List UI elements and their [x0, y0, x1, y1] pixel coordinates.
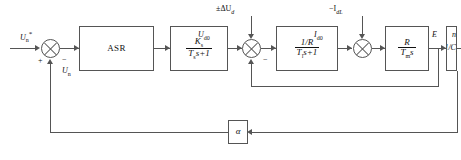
- label-speed-feedback: Un: [62, 66, 71, 77]
- wire-output-tap-down: [457, 71, 458, 132]
- label-reference-input: Un*: [20, 30, 32, 43]
- label-emf-signal: E: [432, 30, 437, 39]
- arrow-reference-in: [35, 45, 40, 51]
- arrow-emf-feedback: [248, 59, 254, 64]
- label-disturbance-voltage: ±ΔUd: [216, 4, 234, 15]
- wire-alpha-to-sum1: [50, 132, 228, 133]
- block-feedback-coefficient: α: [228, 120, 248, 144]
- block-asr: ASR: [79, 26, 154, 71]
- wire-emf-feedback-up: [251, 63, 252, 87]
- wire-disturbance-load: [362, 16, 363, 36]
- wire-disturbance-voltage: [251, 16, 252, 36]
- wire-feedback-up-to-sum1: [50, 63, 51, 133]
- summing-junction-torque: [353, 39, 372, 58]
- wire-reference-in: [10, 48, 35, 49]
- sign-sum2-minus: −: [263, 55, 268, 64]
- block-diagram: Un* + − ASR Ks Tss+1 Ud0 ±ΔUd −: [0, 0, 461, 160]
- summing-junction-emf: [242, 39, 261, 58]
- label-current: Id0: [314, 30, 323, 41]
- wire-emf-feedback-down: [438, 48, 439, 86]
- mechanical-transfer-function: R Tms: [398, 38, 415, 60]
- emf-transfer-function: 1/Ce: [446, 44, 457, 54]
- wire-output: [457, 48, 461, 49]
- block-mechanical: R Tms: [385, 26, 429, 71]
- sign-sum1-minus: −: [62, 55, 67, 64]
- arrow-feedback-into-sum1: [47, 59, 53, 64]
- summing-junction-speed: [41, 39, 60, 58]
- armature-transfer-function: 1/R Tls+1: [295, 38, 320, 60]
- wire-emf-feedback-left: [251, 86, 439, 87]
- label-converter-output: Ud0: [198, 30, 210, 41]
- arrow-into-sum3: [347, 45, 352, 51]
- label-disturbance-load: −IdL: [329, 4, 343, 15]
- label-output-speed: n: [452, 30, 456, 39]
- sign-sum1-plus: +: [38, 56, 43, 65]
- wire-feedback-to-alpha: [252, 132, 458, 133]
- block-armature: 1/R Tls+1: [276, 26, 338, 71]
